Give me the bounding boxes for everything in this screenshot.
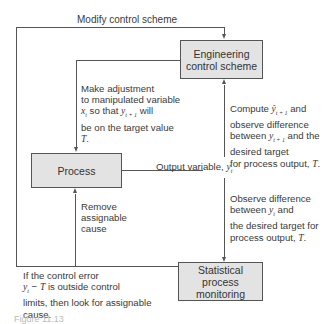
arrow-into-process-bottom (73, 188, 77, 193)
spm-label: Statistical process monitoring (183, 264, 259, 300)
control-error-label: If the control error yt − T is outside c… (23, 270, 152, 320)
spm-line-bottom (16, 266, 178, 267)
adjust-label: Make adjustment to manipulated variable … (81, 83, 180, 144)
modify-label: Modify control scheme (77, 14, 177, 25)
output-variable-label: Output variable, yt (156, 161, 232, 177)
remove-cause-label: Remove assignable cause (81, 201, 127, 235)
engineering-control-label: Engineering control scheme (186, 48, 258, 72)
observe-label: Observe difference between yt and the de… (230, 193, 319, 243)
compute-label: Compute ŷt + 1 and observe difference be… (230, 103, 320, 169)
remove-cause-line (75, 194, 76, 266)
adjust-line-horizontal (76, 60, 180, 61)
spm-box: Statistical process monitoring (178, 262, 263, 301)
arrow-into-engineering (222, 34, 226, 39)
arrow-into-process (74, 147, 78, 152)
arrow-into-engineering-bottom (222, 79, 226, 84)
modify-line-top (16, 27, 225, 28)
engineering-control-box: Engineering control scheme (180, 40, 263, 79)
feedback-line-up (224, 85, 225, 157)
modify-line-left (16, 27, 17, 267)
adjust-line-vertical (76, 60, 77, 148)
figure-caption: Figure 11.13 (14, 314, 64, 324)
process-label: Process (58, 165, 96, 177)
process-box: Process (31, 153, 122, 188)
feedback-line-down (224, 178, 225, 258)
